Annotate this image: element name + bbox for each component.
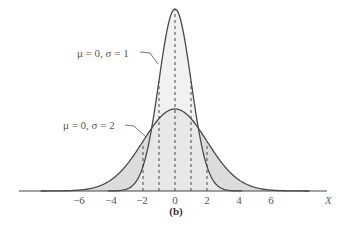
label-sigma-1: μ = 0, σ = 1 (77, 47, 129, 59)
x-tick-label: −2 (136, 194, 148, 206)
x-tick-label: 6 (268, 194, 274, 206)
x-tick-label: −4 (105, 194, 117, 206)
normal-distribution-chart (0, 0, 354, 226)
x-tick-label: −6 (73, 194, 85, 206)
label-sigma-2: μ = 0, σ = 2 (63, 119, 115, 131)
x-axis-label: X (325, 194, 332, 206)
x-tick-label: 2 (204, 194, 210, 206)
annotation-leader-sigma2 (125, 125, 146, 137)
x-tick-label: 4 (236, 194, 242, 206)
annotation-leader-sigma1 (140, 52, 158, 64)
figure-caption: (b) (169, 205, 182, 217)
